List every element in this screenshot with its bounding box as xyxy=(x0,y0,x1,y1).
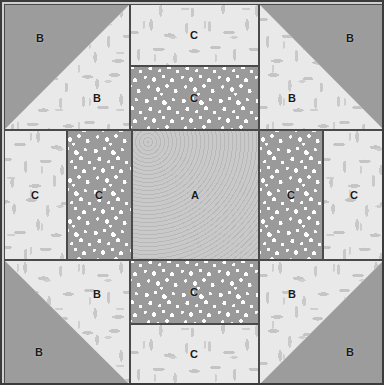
label-middle-left-floral: C xyxy=(31,189,39,201)
label-top-right-solid: B xyxy=(346,32,354,44)
quilt-block-diagram: B B C C B B C C A C C B B C C B B xyxy=(0,0,384,385)
patch-bottom-right-hst xyxy=(259,260,384,385)
label-top-left-solid: B xyxy=(36,32,44,44)
label-bottom-left-solid: B xyxy=(35,346,43,358)
label-bottom-right-solid: B xyxy=(346,346,354,358)
label-bottom-left-floral: B xyxy=(93,288,101,300)
label-center-a: A xyxy=(191,189,199,201)
label-bottom-right-floral: B xyxy=(288,288,296,300)
label-top-right-floral: B xyxy=(288,92,296,104)
label-top-middle-floral: C xyxy=(190,29,198,41)
label-middle-left-dot: C xyxy=(95,189,103,201)
label-bottom-middle-floral: C xyxy=(190,348,198,360)
label-middle-right-floral: C xyxy=(350,189,358,201)
label-middle-right-dot: C xyxy=(287,189,295,201)
patch-top-left-hst xyxy=(4,4,130,130)
patch-top-right-hst xyxy=(259,4,384,130)
label-top-left-floral: B xyxy=(93,92,101,104)
label-top-middle-dot: C xyxy=(190,92,198,104)
label-bottom-middle-dot: C xyxy=(190,286,198,298)
patch-bottom-left-hst xyxy=(4,260,130,385)
